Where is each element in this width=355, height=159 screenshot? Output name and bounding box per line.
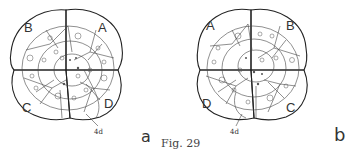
quadrant-label-top-left: B [24, 20, 33, 35]
panel-letter-b: b [334, 124, 345, 145]
quadrant-label-bottom-right: D [104, 96, 113, 111]
embryo-drawing-b: A B D C 4d [176, 0, 355, 140]
cell-label-4d: 4d [230, 128, 239, 136]
quadrant-label-top-right: A [98, 20, 107, 35]
quadrant-label-top-right: B [286, 18, 295, 33]
embryo-panel-a: B A C D 4d [0, 0, 180, 140]
quadrant-label-top-left: A [206, 18, 215, 33]
embryo-drawing-a: B A C D 4d [0, 0, 180, 140]
quadrant-label-bottom-right: C [286, 100, 295, 115]
nuclei [212, 32, 295, 104]
quadrant-label-bottom-left: D [202, 96, 211, 111]
panel-letter-a: a [141, 127, 151, 146]
figure-caption: Fig. 29 [161, 137, 200, 150]
quadrant-label-bottom-left: C [22, 100, 31, 115]
embryo-panel-b: A B D C 4d [176, 0, 355, 140]
cell-label-4d: 4d [94, 128, 103, 136]
